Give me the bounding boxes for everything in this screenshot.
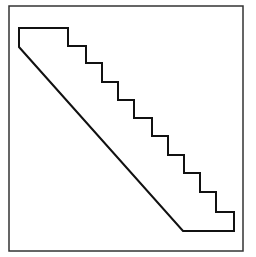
frame-border	[9, 6, 243, 251]
diagram-canvas	[0, 0, 256, 257]
staircase-shape	[19, 28, 234, 231]
